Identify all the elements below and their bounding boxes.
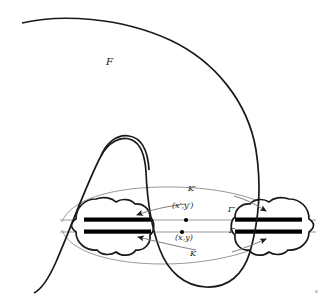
figure-canvas: F K′ K Γ′ Γ (x′,y′) (x,y): [0, 0, 324, 298]
thick-bar: [84, 218, 151, 222]
diagram-svg: [0, 0, 324, 298]
label-point-prime: (x′,y′): [172, 202, 193, 210]
label-line-gamma-prime: Γ′: [228, 206, 235, 214]
thick-bar: [235, 230, 302, 234]
left-cloud-blob: [72, 198, 154, 256]
label-line-gamma: Γ: [229, 227, 235, 235]
label-region-f: F: [106, 57, 113, 67]
label-curve-k-prime: K′: [188, 185, 196, 193]
label-curve-k: K: [190, 250, 196, 258]
right-cloud-blob: [231, 198, 313, 256]
thick-bar: [235, 218, 302, 222]
corner-mark: [315, 290, 318, 293]
outer-curve-F: [22, 18, 259, 293]
label-point: (x,y): [175, 234, 193, 242]
point-marker-prime: [184, 218, 188, 222]
thick-bar: [84, 230, 151, 234]
